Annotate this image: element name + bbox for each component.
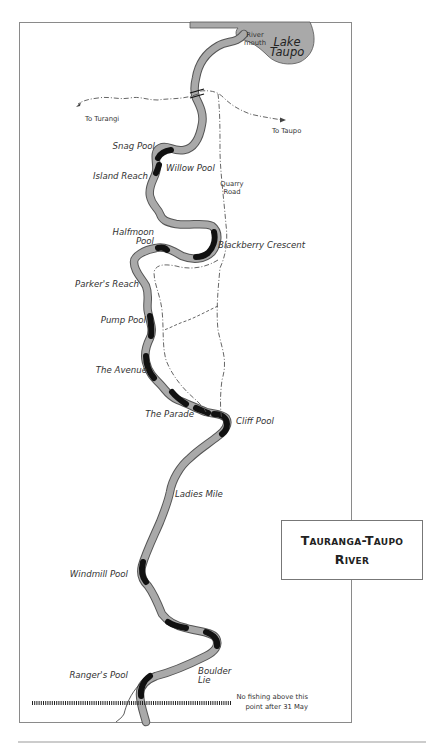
- map-title-box: Tauranga-Taupo River: [281, 520, 423, 580]
- label-windmill-pool: Windmill Pool: [70, 569, 129, 579]
- label-the-avenue: The Avenue: [96, 365, 147, 375]
- pool-lower-1: [168, 622, 186, 628]
- label-island-reach: Island Reach: [93, 171, 148, 181]
- label-boulder-2: Lie: [198, 675, 210, 685]
- label-blackberry: Blackberry Crescent: [218, 240, 306, 250]
- map-frame: [20, 23, 352, 723]
- arrow-to-turangi-icon: [76, 102, 81, 107]
- restriction-note-1: No fishing above this: [236, 693, 308, 701]
- pool-willow: [156, 165, 159, 173]
- highway-east: [200, 91, 282, 120]
- label-quarry-2: Road: [223, 188, 240, 196]
- map-title-line-1: Tauranga-Taupo: [301, 531, 404, 550]
- label-halfmoon-2: Pool: [136, 236, 155, 246]
- pool-snag: [158, 150, 171, 158]
- label-rangers-pool: Ranger's Pool: [69, 670, 128, 680]
- label-cliff-pool: Cliff Pool: [236, 416, 274, 426]
- restriction-note-2: point after 31 May: [245, 703, 308, 711]
- map-title-line-2: River: [335, 550, 370, 569]
- river-map: River mouth Lake Taupo To Turangi To Tau…: [0, 0, 441, 747]
- highway-west: [78, 94, 198, 104]
- pool-pump: [150, 316, 151, 336]
- label-quarry-1: Quarry: [220, 180, 243, 188]
- label-river-mouth-2: mouth: [244, 39, 266, 47]
- cross-track: [164, 306, 218, 330]
- pool-rangers: [141, 676, 150, 696]
- label-snag-pool: Snag Pool: [113, 141, 156, 151]
- arrow-to-taupo-icon: [280, 118, 286, 123]
- label-river-mouth-1: River: [246, 31, 264, 39]
- label-to-taupo: To Taupo: [271, 127, 301, 135]
- quarry-road: [217, 94, 227, 420]
- label-willow-pool: Willow Pool: [166, 163, 215, 173]
- label-parkers-reach: Parker's Reach: [75, 279, 139, 289]
- label-pump-pool: Pump Pool: [101, 315, 147, 325]
- pool-halfmoon: [158, 248, 167, 250]
- label-the-parade: The Parade: [145, 409, 194, 419]
- label-ladies-mile: Ladies Mile: [175, 489, 223, 499]
- label-lake-2: Taupo: [270, 45, 305, 59]
- label-to-turangi: To Turangi: [84, 115, 119, 123]
